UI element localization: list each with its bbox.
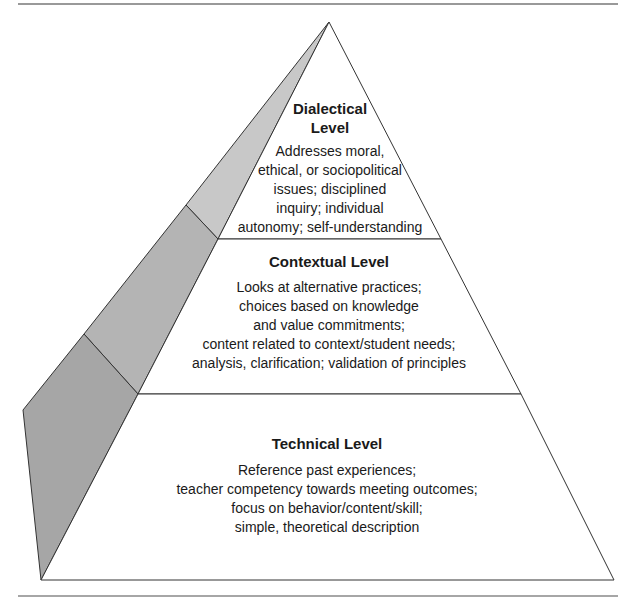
level-desc-line: choices based on knowledge xyxy=(192,297,466,316)
level-desc-line: Looks at alternative practices; xyxy=(192,278,466,297)
level-title-line: Level xyxy=(238,118,422,137)
level-desc-line: Reference past experiences; xyxy=(176,461,477,480)
level-title-line: Contextual Level xyxy=(192,252,466,271)
level-dialectical: Dialectical Level Addresses moral, ethic… xyxy=(238,99,422,237)
level-contextual: Contextual Level Looks at alternative pr… xyxy=(192,252,466,373)
level-technical: Technical Level Reference past experienc… xyxy=(176,434,477,537)
level-title-line: Dialectical xyxy=(238,99,422,118)
level-desc-line: and value commitments; xyxy=(192,316,466,335)
level-desc-line: ethical, or sociopolitical xyxy=(238,161,422,180)
level-desc-line: teacher competency towards meeting outco… xyxy=(176,480,477,499)
level-desc-line: analysis, clarification; validation of p… xyxy=(192,354,466,373)
level-desc-line: focus on behavior/content/skill; xyxy=(176,499,477,518)
level-desc-line: Addresses moral, xyxy=(238,142,422,161)
level-desc-line: autonomy; self-understanding xyxy=(238,218,422,237)
level-desc-line: simple, theoretical description xyxy=(176,518,477,537)
level-desc-line: issues; disciplined xyxy=(238,180,422,199)
level-desc-line: inquiry; individual xyxy=(238,199,422,218)
level-title-line: Technical Level xyxy=(176,434,477,453)
level-desc-line: content related to context/student needs… xyxy=(192,335,466,354)
